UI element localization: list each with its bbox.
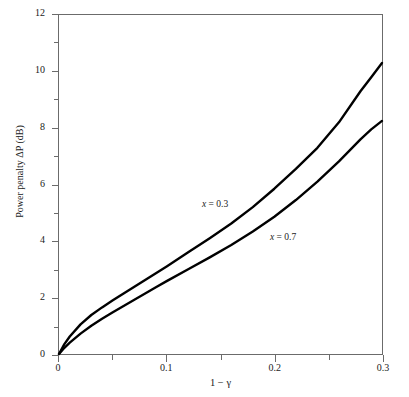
curve-label-x-0-7: x = 0.7 (270, 232, 296, 242)
x-axis-title-text: 1 − γ (210, 377, 231, 388)
y-tick-major (52, 128, 59, 129)
x-tick-minor (112, 355, 113, 360)
y-tick-label: 0 (5, 348, 45, 359)
y-tick-minor (54, 270, 59, 271)
curves-svg (59, 15, 382, 354)
y-tick-major (52, 241, 59, 242)
y-tick-minor (54, 42, 59, 43)
y-tick-minor (54, 99, 59, 100)
x-tick-minor (221, 355, 222, 360)
y-tick-minor (54, 213, 59, 214)
y-tick-label: 12 (5, 7, 45, 18)
x-tick-label: 0.3 (363, 362, 403, 373)
y-tick-label: 4 (5, 234, 45, 245)
x-tick-major (275, 355, 276, 362)
y-tick-major (52, 71, 59, 72)
x-tick-major (383, 355, 384, 362)
x-tick-label: 0 (38, 362, 78, 373)
curve-label-x-0-3: x = 0.3 (202, 199, 228, 209)
y-tick-label: 8 (5, 121, 45, 132)
power-penalty-chart: 02468101200.10.20.3 Power penalty ΔP (dB… (0, 0, 409, 397)
x-tick-label: 0.1 (146, 362, 186, 373)
y-axis-title: Power penalty ΔP (dB) (14, 82, 25, 262)
x-tick-major (166, 355, 167, 362)
y-tick-label: 6 (5, 178, 45, 189)
curve-x-0-7 (59, 121, 382, 354)
curve-label-x-0-3-text: x = 0.3 (202, 199, 228, 209)
plot-area (58, 14, 383, 355)
y-tick-minor (54, 156, 59, 157)
y-tick-major (52, 14, 59, 15)
y-axis-title-text: Power penalty ΔP (dB) (14, 125, 25, 217)
x-tick-major (58, 355, 59, 362)
y-tick-major (52, 185, 59, 186)
y-tick-label: 2 (5, 291, 45, 302)
y-tick-label: 10 (5, 64, 45, 75)
y-tick-major (52, 298, 59, 299)
x-tick-minor (329, 355, 330, 360)
x-axis-title: 1 − γ (58, 377, 383, 388)
x-tick-label: 0.2 (255, 362, 295, 373)
y-tick-minor (54, 327, 59, 328)
curve-label-x-0-7-text: x = 0.7 (270, 232, 296, 242)
